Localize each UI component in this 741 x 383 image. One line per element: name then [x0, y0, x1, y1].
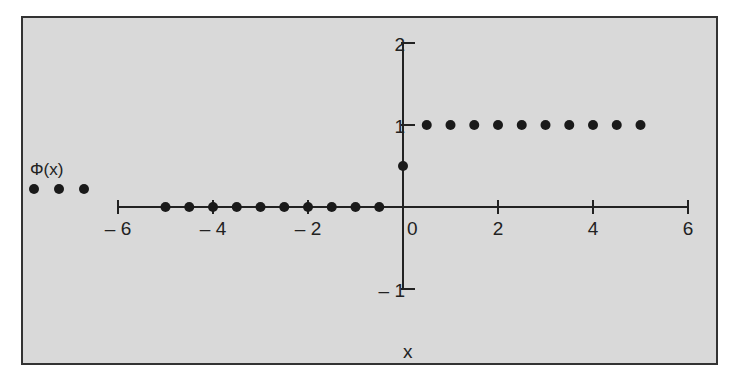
x-tick-label: – 6: [105, 218, 131, 239]
x-tick-label: 2: [493, 218, 504, 239]
data-point: [351, 202, 361, 212]
data-point: [612, 120, 622, 130]
data-point: [256, 202, 266, 212]
data-point: [541, 120, 551, 130]
data-point: [208, 202, 218, 212]
data-point: [374, 202, 384, 212]
legend-marker-icon: [29, 184, 39, 194]
y-tick-label: 1: [394, 116, 405, 137]
y-tick-label: 2: [394, 34, 405, 55]
data-point: [279, 202, 289, 212]
data-point: [184, 202, 194, 212]
data-point: [446, 120, 456, 130]
legend-marker-icon: [54, 184, 64, 194]
y-tick-label: – 1: [379, 280, 405, 301]
x-tick-label: – 4: [200, 218, 227, 239]
x-tick-label: 0: [407, 218, 418, 239]
legend: Φ(x): [29, 160, 89, 194]
data-point: [588, 120, 598, 130]
x-tick-label: 6: [683, 218, 694, 239]
data-point: [398, 161, 408, 171]
data-point: [493, 120, 503, 130]
data-point: [232, 202, 242, 212]
x-tick-label: 4: [588, 218, 599, 239]
x-axis-label: x: [403, 341, 413, 362]
data-point: [517, 120, 527, 130]
chart-canvas: – 6– 4– 20246– 112 Φ(x) x: [0, 0, 741, 383]
x-tick-label: – 2: [295, 218, 321, 239]
data-point: [564, 120, 574, 130]
data-point: [636, 120, 646, 130]
legend-marker-icon: [79, 184, 89, 194]
data-point: [327, 202, 337, 212]
data-point: [469, 120, 479, 130]
data-point: [422, 120, 432, 130]
legend-label: Φ(x): [30, 160, 63, 179]
data-point: [303, 202, 313, 212]
data-point: [161, 202, 171, 212]
